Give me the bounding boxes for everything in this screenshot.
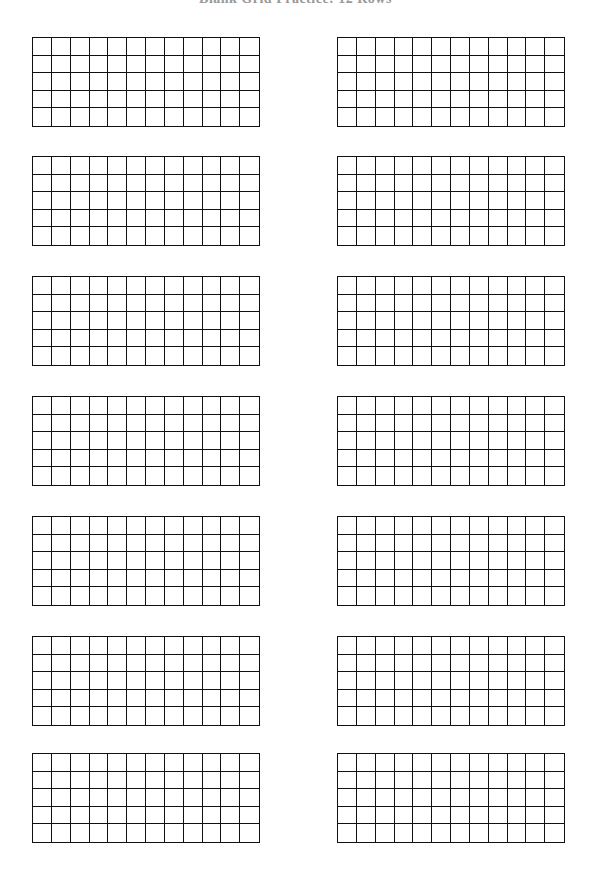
grid-cell: [52, 277, 71, 295]
grid-cell: [221, 587, 240, 605]
grid-cell: [240, 637, 259, 655]
grid-cell: [71, 330, 90, 348]
grid-cell: [526, 824, 545, 842]
grid-cell: [451, 754, 470, 772]
grid-cell: [108, 397, 127, 415]
grid-cell: [357, 754, 376, 772]
grid-cell: [127, 772, 146, 790]
grid-cell: [165, 210, 184, 228]
grid-cell: [146, 467, 165, 485]
grid-cell: [165, 277, 184, 295]
grid-cell: [127, 312, 146, 330]
grid-cell: [203, 450, 222, 468]
grid-cell: [184, 295, 203, 313]
grid-cell: [108, 789, 127, 807]
grid-cell: [221, 824, 240, 842]
grid-cell: [526, 772, 545, 790]
grid-cell: [184, 535, 203, 553]
grid-cell: [52, 807, 71, 825]
grid-cell: [526, 570, 545, 588]
grid-cell: [395, 517, 414, 535]
grid-cell: [395, 824, 414, 842]
grid-cell: [413, 432, 432, 450]
grid-cell: [357, 277, 376, 295]
grid-cell: [221, 754, 240, 772]
grid-cell: [470, 432, 489, 450]
grid-cell: [432, 347, 451, 365]
grid-cell: [240, 91, 259, 109]
practice-grid: [337, 636, 565, 726]
grid-cell: [52, 73, 71, 91]
grid-cell: [127, 789, 146, 807]
grid-cell: [184, 467, 203, 485]
grid-cell: [489, 707, 508, 725]
practice-grid: [337, 276, 565, 366]
grid-cell: [432, 38, 451, 56]
grid-cell: [71, 517, 90, 535]
grid-cell: [451, 807, 470, 825]
grid-cell: [489, 570, 508, 588]
grid-cell: [508, 38, 527, 56]
grid-cell: [108, 707, 127, 725]
grid-cell: [338, 690, 357, 708]
grid-cell: [489, 277, 508, 295]
grid-cell: [221, 347, 240, 365]
grid-cell: [413, 587, 432, 605]
grid-cell: [90, 38, 109, 56]
grid-cell: [90, 772, 109, 790]
grid-cell: [545, 295, 564, 313]
grid-cell: [357, 655, 376, 673]
grid-cell: [184, 432, 203, 450]
grid-cell: [489, 347, 508, 365]
grid-cell: [376, 517, 395, 535]
practice-grid: [32, 396, 260, 486]
grid-cell: [203, 91, 222, 109]
grid-cell: [33, 210, 52, 228]
grid-cell: [376, 637, 395, 655]
grid-cell: [184, 73, 203, 91]
grid-cell: [71, 38, 90, 56]
grid-cell: [395, 655, 414, 673]
grid-cell: [526, 807, 545, 825]
grid-cell: [71, 192, 90, 210]
grid-cell: [432, 690, 451, 708]
grid-cell: [90, 467, 109, 485]
grid-cell: [165, 824, 184, 842]
grid-cell: [52, 467, 71, 485]
grid-cell: [338, 210, 357, 228]
grid-cell: [413, 415, 432, 433]
grid-cell: [108, 108, 127, 126]
grid-cell: [526, 192, 545, 210]
grid-cell: [470, 707, 489, 725]
grid-cell: [33, 347, 52, 365]
grid-cell: [165, 330, 184, 348]
grid-cell: [395, 91, 414, 109]
grid-cell: [395, 312, 414, 330]
grid-cell: [376, 772, 395, 790]
grid-cell: [127, 824, 146, 842]
grid-cell: [432, 91, 451, 109]
grid-cell: [146, 754, 165, 772]
grid-cell: [165, 175, 184, 193]
grid-cell: [489, 552, 508, 570]
grid-cell: [221, 397, 240, 415]
grid-cell: [90, 535, 109, 553]
grid-cell: [221, 707, 240, 725]
grid-cell: [526, 277, 545, 295]
grid-cell: [338, 91, 357, 109]
grid-cell: [545, 754, 564, 772]
grid-cell: [203, 397, 222, 415]
grid-cell: [146, 157, 165, 175]
grid-cell: [470, 772, 489, 790]
grid-cell: [451, 570, 470, 588]
grid-cell: [526, 552, 545, 570]
grid-cell: [489, 175, 508, 193]
grid-cell: [203, 467, 222, 485]
grid-cell: [90, 415, 109, 433]
grid-cell: [451, 552, 470, 570]
grid-cell: [545, 467, 564, 485]
grid-cell: [127, 56, 146, 74]
grid-cell: [52, 535, 71, 553]
grid-cell: [376, 397, 395, 415]
grid-cell: [203, 637, 222, 655]
